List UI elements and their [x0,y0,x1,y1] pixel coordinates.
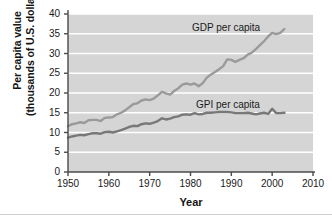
x-axis-label: Year [68,196,314,208]
x-tick-label: 1990 [211,178,251,189]
x-tick-label: 1970 [130,178,170,189]
x-tick-label: 1960 [89,178,129,189]
series-annotation-gpi: GPI per capita [196,99,260,110]
x-tick-label: 1950 [48,178,88,189]
series-annotation-gdp: GDP per capita [192,22,260,33]
x-tick-label: 1980 [171,178,211,189]
x-tick-label: 2000 [252,178,292,189]
chart-figure: Per capita value (thousands of U.S. doll… [0,0,332,218]
x-tick-label: 2010 [293,178,332,189]
footer-divider [0,214,332,215]
